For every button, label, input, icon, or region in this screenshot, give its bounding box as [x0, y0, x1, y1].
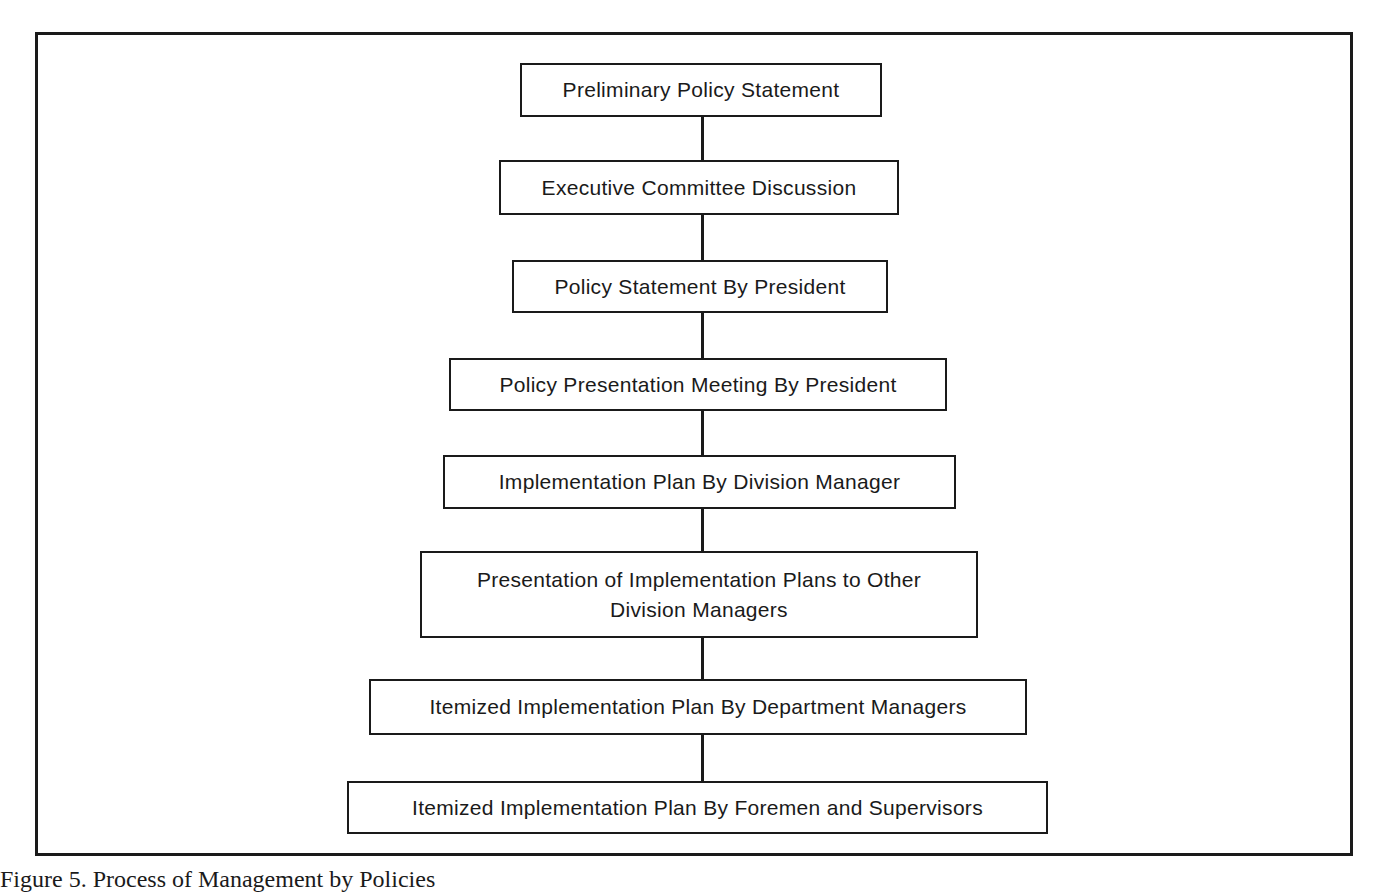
- connector-7-8: [701, 733, 704, 781]
- step-box-preliminary-policy-statement: Preliminary Policy Statement: [520, 63, 882, 117]
- step-label: Implementation Plan By Division Manager: [499, 467, 901, 497]
- step-label: Executive Committee Discussion: [542, 173, 857, 203]
- step-box-implementation-plan-division-manager: Implementation Plan By Division Manager: [443, 455, 956, 509]
- step-label: Itemized Implementation Plan By Departme…: [429, 692, 966, 722]
- connector-1-2: [701, 115, 704, 160]
- step-label: Preliminary Policy Statement: [563, 75, 840, 105]
- connector-4-5: [701, 409, 704, 456]
- connector-5-6: [701, 507, 704, 551]
- step-box-policy-statement-by-president: Policy Statement By President: [512, 260, 888, 313]
- step-box-policy-presentation-meeting: Policy Presentation Meeting By President: [449, 358, 947, 411]
- step-label: Presentation of Implementation Plans to …: [472, 565, 926, 625]
- step-label: Itemized Implementation Plan By Foremen …: [412, 793, 983, 823]
- step-box-executive-committee-discussion: Executive Committee Discussion: [499, 160, 899, 215]
- step-box-itemized-plan-department-managers: Itemized Implementation Plan By Departme…: [369, 679, 1027, 735]
- step-box-itemized-plan-foremen-supervisors: Itemized Implementation Plan By Foremen …: [347, 781, 1048, 834]
- step-label: Policy Statement By President: [554, 272, 845, 302]
- step-label: Policy Presentation Meeting By President: [499, 370, 896, 400]
- step-box-presentation-of-implementation-plans: Presentation of Implementation Plans to …: [420, 551, 978, 638]
- connector-2-3: [701, 213, 704, 260]
- connector-6-7: [701, 636, 704, 679]
- figure-caption: Figure 5. Process of Management by Polic…: [0, 866, 435, 893]
- connector-3-4: [701, 311, 704, 358]
